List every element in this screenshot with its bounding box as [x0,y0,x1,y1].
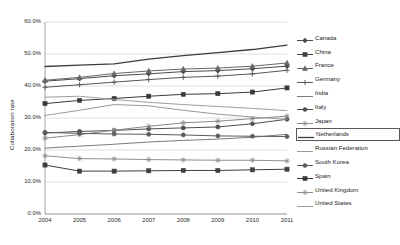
legend-item[interactable]: Spain [296,169,400,183]
legend-item[interactable]: Netherlands [296,128,400,142]
series-line [42,153,289,164]
legend-marker-icon [296,157,314,168]
legend-item[interactable]: India [296,86,400,100]
legend-item[interactable]: Russian Federation [296,141,400,155]
legend-marker-icon [296,101,314,112]
legend-label: Italy [314,104,326,110]
series-line [43,86,289,106]
legend-label: South Korea [314,159,349,165]
legend-item[interactable]: Canada [296,31,400,45]
legend-item[interactable]: Germany [296,72,400,86]
legend-label: Russian Federation [314,145,368,151]
chart-legend: CanadaChinaFranceGermanyIndiaItalyJapanN… [296,31,400,210]
legend-label: India [314,90,328,96]
legend-marker-icon [297,129,315,140]
legend-marker-icon [296,170,314,181]
legend-item[interactable]: United Kingdom [296,183,400,197]
legend-label: Japan [314,118,332,124]
legend-marker-icon [296,60,314,71]
series-line [45,45,287,66]
series-line [43,163,289,173]
legend-marker-icon [296,88,314,99]
legend-marker-icon [296,74,314,85]
legend-marker-icon [296,32,314,43]
legend-label: Canada [314,35,336,41]
line-chart: Collaboration rate 0.0%10.0%20.0%30.0%40… [0,0,400,245]
legend-item[interactable]: France [296,59,400,73]
legend-item[interactable]: Italy [296,100,400,114]
legend-label: China [314,49,331,55]
legend-marker-icon [296,143,314,154]
legend-marker-icon [296,198,314,209]
legend-marker-icon [296,46,314,57]
gridlines [45,22,287,214]
legend-item[interactable]: China [296,45,400,59]
series-line [45,105,287,120]
legend-label: United States [314,200,352,206]
series-line [43,130,289,138]
legend-item[interactable]: United States [296,197,400,211]
legend-label: France [314,62,334,68]
legend-label: United Kingdom [314,187,358,193]
legend-item[interactable]: South Korea [296,155,400,169]
legend-item[interactable]: Japan [296,114,400,128]
legend-marker-icon [296,115,314,126]
legend-label: Netherlands [315,131,349,137]
legend-marker-icon [296,184,314,195]
legend-label: Spain [314,173,331,179]
legend-label: Germany [314,76,340,82]
